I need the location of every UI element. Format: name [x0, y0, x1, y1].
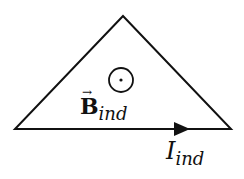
diagram-canvas: [0, 0, 244, 179]
field-dot: [119, 78, 122, 81]
field-subscript: ind: [99, 103, 128, 124]
current-arrow-icon: [174, 122, 190, 136]
current-label: Iind: [166, 137, 204, 169]
vector-arrow: →: [82, 85, 92, 99]
current-subscript: ind: [175, 148, 204, 169]
field-label: → Bind: [80, 93, 127, 124]
